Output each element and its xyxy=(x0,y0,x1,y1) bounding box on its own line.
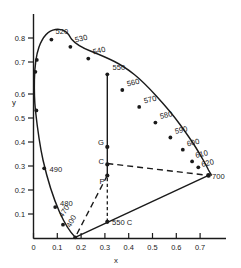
y-axis-ticks xyxy=(28,38,34,214)
y-tick-label-0-7: 0.7 xyxy=(15,58,25,67)
label-490: 490 xyxy=(50,165,63,174)
label-560: 560 xyxy=(126,77,140,89)
purple-line xyxy=(75,175,208,237)
label-700: 700 xyxy=(212,172,225,181)
label-550: 550 xyxy=(113,63,126,72)
y-tick-label-0-1: 0.1 xyxy=(15,210,25,219)
point-540 xyxy=(86,57,90,61)
label-point-G: G xyxy=(98,138,104,147)
label-point-C: C xyxy=(99,157,105,166)
x-tick-label-0: 0 xyxy=(31,243,35,252)
x-tick-label-0-2: 0.2 xyxy=(76,243,86,252)
point-490 xyxy=(42,166,46,170)
label-570: 570 xyxy=(143,94,157,106)
x-axis-title: x xyxy=(114,256,118,265)
y-tick-label-0-8: 0.8 xyxy=(15,34,25,43)
cie-chromaticity-diagram: 0.1 0.2 0.3 0.4 0.5 0.6 0.7 0.8 0 0.1 0.… xyxy=(0,0,241,268)
point-400 xyxy=(73,235,77,239)
x-tick-label-0-1: 0.1 xyxy=(52,243,62,252)
point-620 xyxy=(196,165,200,169)
point-600 xyxy=(181,148,185,152)
point-G xyxy=(105,145,109,149)
y-tick-label-0-2: 0.2 xyxy=(15,186,25,195)
label-620: 620 xyxy=(200,157,214,169)
point-570 xyxy=(137,105,141,109)
label-540: 540 xyxy=(92,45,106,57)
label-520: 520 xyxy=(56,27,69,36)
y-tick-label-0-3: 0.3 xyxy=(15,162,25,171)
label-530: 530 xyxy=(74,33,88,45)
x-tick-label-0-4: 0.4 xyxy=(124,243,134,252)
x-tick-label-0-3: 0.3 xyxy=(100,243,110,252)
label-point-550-C: 550 C xyxy=(112,218,133,227)
x-tick-label-0-5: 0.5 xyxy=(147,243,157,252)
point-530 xyxy=(69,45,73,49)
point-550-C xyxy=(105,220,109,224)
y-tick-label-0-5: 0.5 xyxy=(15,114,25,123)
x-tick-label-0-6: 0.6 xyxy=(171,243,181,252)
point-590 xyxy=(169,136,173,140)
y-tick-label-0-4: 0.4 xyxy=(15,138,25,147)
annotation-labels: 520 530 540 550 560 570 580 590 600 610 … xyxy=(50,27,225,229)
chart-canvas: 0.1 0.2 0.3 0.4 0.5 0.6 0.7 0.8 0 0.1 0.… xyxy=(0,0,241,268)
complementary-line-dashed xyxy=(107,164,208,176)
point-locus-left-750 xyxy=(35,58,39,62)
point-520 xyxy=(50,38,54,42)
point-C xyxy=(105,162,109,166)
point-700 xyxy=(206,173,211,178)
label-point-P: P xyxy=(99,177,104,186)
point-610 xyxy=(190,160,194,164)
point-580 xyxy=(154,121,158,125)
point-locus-left-538 xyxy=(35,109,39,113)
x-tick-label-0-7: 0.7 xyxy=(195,243,205,252)
point-locus-left-700 xyxy=(34,70,38,74)
label-600: 600 xyxy=(186,137,200,149)
point-P xyxy=(105,174,109,178)
y-tick-label-0-6: 0.6 xyxy=(15,90,25,99)
label-580: 580 xyxy=(159,109,173,121)
y-axis-title: y xyxy=(12,98,16,107)
point-550 xyxy=(105,72,109,76)
construction-lines-group xyxy=(75,74,208,237)
point-480 xyxy=(53,205,57,209)
point-560 xyxy=(120,88,124,92)
x-axis-ticks xyxy=(34,233,201,239)
